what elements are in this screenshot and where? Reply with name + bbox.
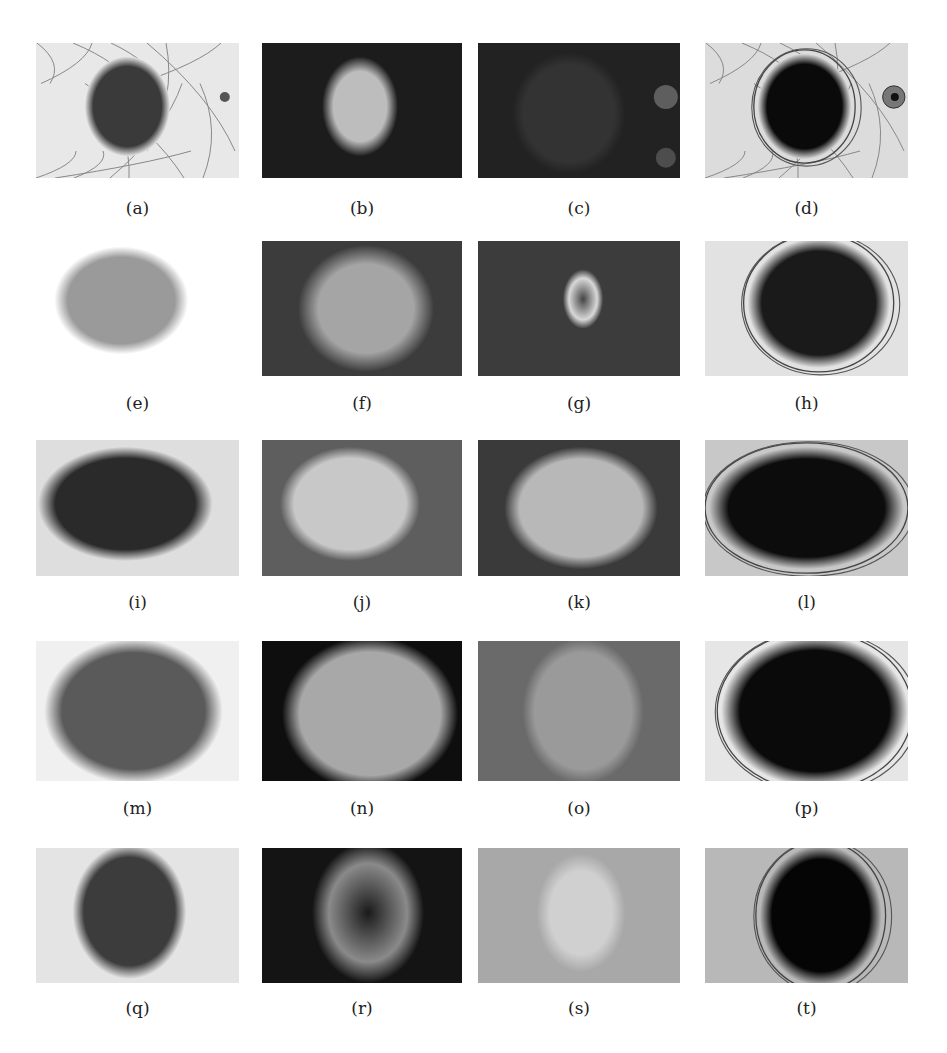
lesion-image-f — [262, 241, 462, 376]
figure-panel-n — [262, 641, 462, 781]
panel-caption-p: (p) — [747, 798, 867, 818]
panel-caption-l: (l) — [747, 592, 867, 612]
panel-caption-j: (j) — [302, 592, 422, 612]
panel-caption-n: (n) — [302, 798, 422, 818]
lesion-image-s — [478, 848, 680, 983]
figure-panel-a — [36, 43, 239, 178]
panel-caption-t: (t) — [747, 998, 867, 1018]
panel-caption-f: (f) — [302, 393, 422, 413]
panel-caption-s: (s) — [519, 998, 639, 1018]
panel-caption-o: (o) — [519, 798, 639, 818]
figure-panel-b — [262, 43, 462, 178]
lesion-image-n — [262, 641, 462, 781]
lesion-image-r — [262, 848, 462, 983]
lesion-image-t — [705, 848, 908, 983]
lesion-image-b — [262, 43, 462, 178]
figure-panel-c — [478, 43, 680, 178]
lesion-image-q — [36, 848, 239, 983]
lesion-image-d — [705, 43, 908, 178]
lesion-image-i — [36, 440, 239, 576]
figure-panel-f — [262, 241, 462, 376]
panel-caption-g: (g) — [519, 393, 639, 413]
panel-caption-q: (q) — [78, 998, 198, 1018]
figure-panel-t — [705, 848, 908, 983]
figure-panel-k — [478, 440, 680, 576]
figure-panel-s — [478, 848, 680, 983]
figure-panel-j — [262, 440, 462, 576]
panel-caption-e: (e) — [78, 393, 198, 413]
lesion-image-c — [478, 43, 680, 178]
panel-caption-d: (d) — [747, 198, 867, 218]
lesion-image-o — [478, 641, 680, 781]
figure-panel-p — [705, 641, 908, 781]
figure-panel-m — [36, 641, 239, 781]
lesion-image-l — [705, 440, 908, 576]
figure-panel-l — [705, 440, 908, 576]
panel-caption-r: (r) — [302, 998, 422, 1018]
lesion-image-m — [36, 641, 239, 781]
lesion-image-a — [36, 43, 239, 178]
figure-panel-d — [705, 43, 908, 178]
lesion-image-j — [262, 440, 462, 576]
lesion-image-p — [705, 641, 908, 781]
lesion-image-k — [478, 440, 680, 576]
panel-caption-a: (a) — [78, 198, 198, 218]
panel-caption-b: (b) — [302, 198, 422, 218]
panel-caption-i: (i) — [78, 592, 198, 612]
figure-panel-o — [478, 641, 680, 781]
panel-caption-k: (k) — [519, 592, 639, 612]
lesion-image-g — [478, 241, 680, 376]
lesion-image-h — [705, 241, 908, 376]
figure-panel-r — [262, 848, 462, 983]
lesion-image-e — [36, 241, 239, 376]
figure-panel-h — [705, 241, 908, 376]
figure-panel-g — [478, 241, 680, 376]
panel-caption-h: (h) — [747, 393, 867, 413]
figure-panel-i — [36, 440, 239, 576]
panel-caption-c: (c) — [519, 198, 639, 218]
figure-panel-q — [36, 848, 239, 983]
panel-caption-m: (m) — [78, 798, 198, 818]
figure-panel-e — [36, 241, 239, 376]
